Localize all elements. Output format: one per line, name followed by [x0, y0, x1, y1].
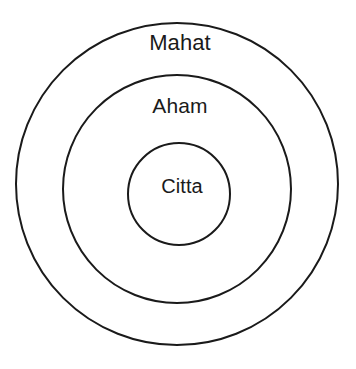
- ring-label-mahat: Mahat: [2, 32, 356, 54]
- diagram-canvas: Mahat Aham Citta: [0, 0, 356, 369]
- ring-label-citta: Citta: [4, 176, 356, 196]
- ring-label-aham: Aham: [2, 95, 356, 116]
